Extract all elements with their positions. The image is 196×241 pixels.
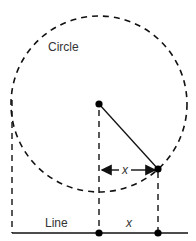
circle-point-dot [154, 165, 161, 172]
baseline-point-dot [154, 229, 161, 236]
circle-label: Circle [48, 40, 79, 54]
diagram-canvas: Circle Line x x [0, 0, 196, 241]
line-label: Line [45, 216, 68, 230]
radius-line [99, 104, 158, 169]
center-dot [95, 100, 102, 107]
x-bottom-label: x [125, 216, 133, 230]
baseline-center-dot [95, 229, 102, 236]
x-arrow-label: x [121, 163, 129, 177]
